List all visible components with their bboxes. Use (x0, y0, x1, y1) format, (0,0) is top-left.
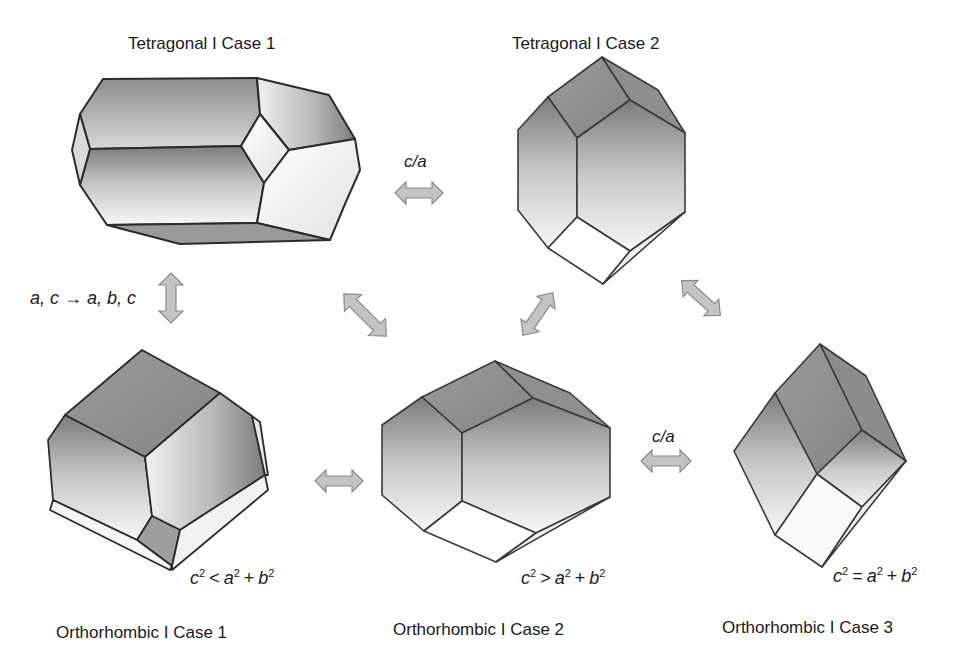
eq-a: a (224, 568, 234, 588)
condition-orthorhombic-case-1: c2<a2+b2 (190, 568, 274, 589)
double-arrow-tetragonal-ratio (394, 180, 444, 206)
eq-op: = (848, 566, 867, 586)
double-arrow-vertical (158, 272, 184, 324)
condition-orthorhombic-case-2: c2>a2+b2 (521, 568, 605, 589)
double-arrow-diagonal-left (340, 290, 390, 340)
title-orthorhombic-case-1: Orthorhombic I Case 1 (56, 623, 227, 643)
double-arrow-diagonal-right (680, 278, 722, 318)
eq-plus: + (883, 566, 902, 586)
eq-exp: 2 (234, 567, 240, 579)
eq-b: b (901, 566, 911, 586)
eq-exp: 2 (599, 567, 605, 579)
ratio-label-tetragonal: c/a (404, 152, 427, 172)
crystal-orthorhombic-case-3 (720, 335, 920, 575)
eq-lhs: c (833, 566, 842, 586)
title-orthorhombic-case-2: Orthorhombic I Case 2 (393, 620, 564, 640)
double-arrow-orthorhombic-1-2 (314, 468, 364, 494)
ratio-label-orthorhombic: c/a (652, 427, 675, 447)
title-tetragonal-case-1: Tetragonal I Case 1 (128, 34, 275, 54)
crystal-tetragonal-case-1 (55, 70, 375, 250)
eq-a: a (867, 566, 877, 586)
eq-exp: 2 (911, 565, 917, 577)
eq-plus: + (571, 568, 590, 588)
eq-exp: 2 (565, 567, 571, 579)
eq-exp: 2 (877, 565, 883, 577)
lattice-change-label: a, c → a, b, c (30, 288, 136, 309)
condition-orthorhombic-case-3: c2=a2+b2 (833, 566, 917, 587)
eq-op: > (536, 568, 555, 588)
eq-lhs: c (521, 568, 530, 588)
eq-b: b (258, 568, 268, 588)
eq-a: a (555, 568, 565, 588)
eq-plus: + (240, 568, 259, 588)
crystal-orthorhombic-case-2 (370, 355, 620, 565)
eq-lhs: c (190, 568, 199, 588)
crystal-orthorhombic-case-1 (30, 340, 280, 580)
double-arrow-diagonal-center (518, 292, 558, 336)
eq-exp: 2 (268, 567, 274, 579)
double-arrow-orthorhombic-ratio (640, 448, 692, 474)
crystal-tetragonal-case-2 (500, 50, 700, 300)
eq-op: < (205, 568, 224, 588)
eq-b: b (589, 568, 599, 588)
title-orthorhombic-case-3: Orthorhombic I Case 3 (722, 618, 893, 638)
